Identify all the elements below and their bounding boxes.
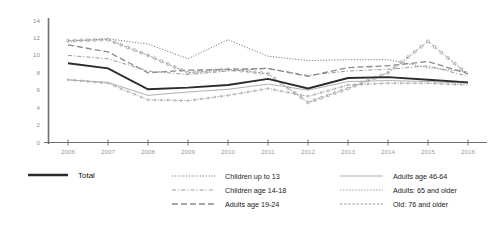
legend-label-children-up-to-13: Children up to 13 (225, 172, 280, 181)
series-marker (234, 93, 236, 95)
legend-label-adults-age-19-24: Adults age 19-24 (225, 200, 279, 209)
legend-label-children-age-14-18: Children age 14-18 (225, 186, 286, 195)
y-axis-tick-labels: 14 12 10 8 6 4 2 0 (33, 17, 40, 146)
series-marker (174, 99, 176, 101)
series-marker (147, 99, 149, 101)
series-marker (114, 85, 116, 87)
series-marker (200, 98, 202, 100)
x-tick-label: 2015 (421, 148, 435, 155)
x-axis-tick-labels: 2006 2007 2008 2009 2010 2011 2012 2013 … (61, 148, 475, 155)
x-tick-label: 2014 (381, 148, 395, 155)
series-marker (327, 90, 329, 92)
series-marker (427, 40, 430, 43)
legend-item-total[interactable]: Total (28, 171, 95, 180)
y-tick-label: 8 (37, 69, 41, 76)
legend: Total Children up to 13 Children age 14-… (28, 171, 458, 209)
legend-item-old-76-and-older[interactable]: Old: 76 and older (340, 200, 449, 209)
series-marker (180, 100, 182, 102)
legend-item-adults-65-and-older[interactable]: Adults: 65 and older (340, 186, 458, 195)
x-tick-label: 2009 (181, 148, 195, 155)
x-tick-label: 2013 (341, 148, 355, 155)
series-marker (420, 45, 423, 48)
y-tick-label: 6 (37, 86, 41, 93)
series-marker (287, 91, 289, 93)
series-marker (447, 83, 449, 85)
series-marker (433, 45, 436, 48)
line-chart: .s-total { stroke:#2b2b2b; stroke-width:… (0, 0, 495, 225)
series-marker (307, 95, 309, 97)
y-tick-label: 0 (37, 139, 41, 146)
y-tick-label: 4 (37, 104, 41, 111)
x-tick-label: 2010 (221, 148, 235, 155)
legend-label-old-76-and-older: Old: 76 and older (393, 200, 449, 209)
series-marker (207, 97, 209, 99)
x-tick-label: 2008 (141, 148, 155, 155)
x-tick-label: 2012 (301, 148, 315, 155)
series-marker (127, 91, 129, 93)
x-tick-label: 2016 (461, 148, 475, 155)
legend-item-adults-age-46-64[interactable]: Adults age 46-64 (340, 172, 447, 181)
legend-label-adults-age-46-64: Adults age 46-64 (393, 172, 447, 181)
series-layer (67, 38, 469, 104)
series-marker (94, 81, 96, 83)
series-marker (407, 82, 409, 84)
series-marker (380, 83, 382, 85)
y-tick-label: 2 (37, 121, 41, 128)
series-marker (440, 51, 443, 54)
series-marker (347, 84, 349, 86)
series-marker (440, 83, 442, 85)
y-tick-label: 14 (33, 17, 40, 24)
series-marker (387, 82, 389, 84)
x-tick-label: 2006 (61, 148, 75, 155)
series-marker (414, 82, 416, 84)
legend-item-children-age-14-18[interactable]: Children age 14-18 (172, 186, 286, 195)
series-adults-65-and-older-markers (67, 79, 462, 102)
series-marker (254, 90, 256, 92)
x-tick-label: 2011 (261, 148, 275, 155)
series-marker (280, 90, 282, 92)
x-tick-label: 2007 (101, 148, 115, 155)
legend-label-adults-65-and-older: Adults: 65 and older (393, 186, 458, 195)
legend-item-adults-age-19-24[interactable]: Adults age 19-24 (172, 200, 279, 209)
series-marker (227, 94, 229, 96)
series-marker (334, 88, 336, 90)
y-tick-label: 12 (33, 34, 40, 41)
series-marker (260, 89, 262, 91)
series-adults-age-19-24 (68, 45, 468, 76)
y-tick-label: 10 (33, 51, 40, 58)
chart-figure: .s-total { stroke:#2b2b2b; stroke-width:… (0, 0, 495, 225)
legend-item-children-up-to-13[interactable]: Children up to 13 (172, 172, 280, 181)
legend-label-total: Total (78, 171, 95, 180)
series-old-76-and-older-markers (67, 38, 463, 104)
